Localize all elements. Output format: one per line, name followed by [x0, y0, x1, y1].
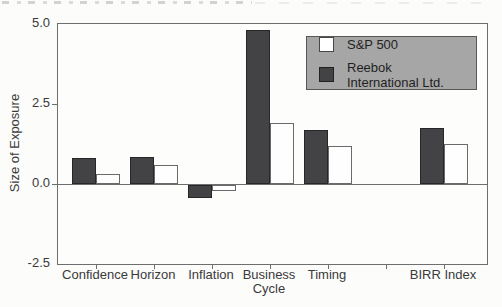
x-tick-label-line: Inflation — [188, 268, 234, 282]
x-tick-label-horizon: Horizon — [131, 268, 176, 282]
x-axis-tick — [386, 265, 387, 269]
bar-reebok-international-ltd-timing — [304, 130, 328, 184]
bar-s-p-500-timing — [328, 146, 352, 184]
plot-area: S&P 500 Reebok International Ltd. — [57, 23, 488, 265]
bar-reebok-international-ltd-horizon — [130, 157, 154, 184]
x-tick-label-inflation: Inflation — [188, 268, 234, 282]
x-tick-label-line: BIRR Index — [410, 268, 476, 282]
y-tick-label-2.5: 2.5 — [16, 95, 50, 110]
legend-label-reebok: Reebok International Ltd. — [347, 60, 464, 90]
x-tick-label-birr-index: BIRR Index — [410, 268, 476, 282]
bar-s-p-500-inflation — [212, 185, 236, 191]
bar-reebok-international-ltd-inflation — [188, 185, 212, 198]
cropped-text-fragment — [255, 2, 485, 4]
bar-s-p-500-business-cycle — [270, 123, 294, 184]
y-axis-tick — [52, 184, 57, 185]
x-tick-label-confidence: Confidence — [62, 268, 128, 282]
x-tick-label-line: Timing — [308, 268, 347, 282]
bar-reebok-international-ltd-birr-index — [420, 128, 444, 184]
y-axis-tick — [52, 104, 57, 105]
x-tick-label-business-cycle: BusinessCycle — [243, 268, 296, 296]
legend-label-sp500: S&P 500 — [347, 37, 398, 52]
y-tick-label-0.0: 0.0 — [16, 175, 50, 190]
sp500-swatch — [319, 37, 334, 52]
legend: S&P 500 Reebok International Ltd. — [306, 36, 477, 90]
page: Size of Exposure S&P 500 Reebok Internat… — [0, 0, 502, 307]
bar-s-p-500-confidence — [96, 174, 120, 184]
x-tick-label-timing: Timing — [308, 268, 347, 282]
legend-row-sp500: S&P 500 — [319, 37, 464, 52]
bar-s-p-500-horizon — [154, 165, 178, 184]
x-tick-label-line: Horizon — [131, 268, 176, 282]
zero-line — [58, 184, 487, 185]
bar-reebok-international-ltd-confidence — [72, 158, 96, 184]
bar-s-p-500-birr-index — [444, 144, 468, 184]
legend-row-reebok: Reebok International Ltd. — [319, 60, 464, 90]
cropped-text-fragment — [2, 1, 252, 4]
bar-reebok-international-ltd-business-cycle — [246, 30, 270, 184]
x-tick-label-line: Business — [243, 268, 296, 282]
x-tick-label-line: Cycle — [243, 282, 296, 296]
y-tick-label-5.0: 5.0 — [16, 15, 50, 30]
reebok-swatch — [319, 67, 334, 82]
y-tick-label--2.5: -2.5 — [16, 255, 50, 270]
x-tick-label-line: Confidence — [62, 268, 128, 282]
